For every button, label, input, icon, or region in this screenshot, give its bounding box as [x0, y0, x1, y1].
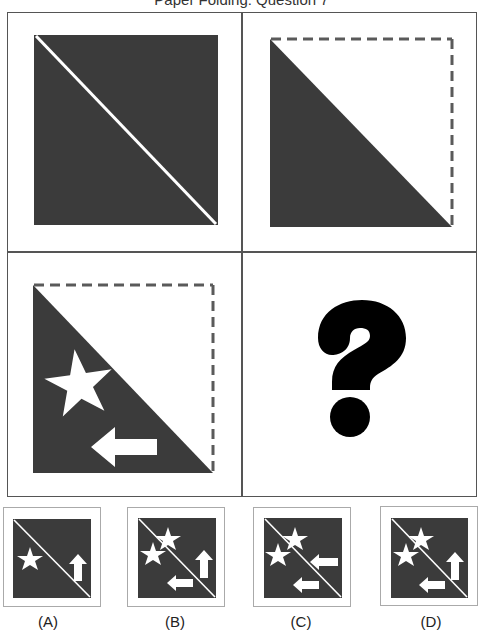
step-1-unfolded-square: [34, 35, 218, 225]
step-2-folded-triangle: [270, 37, 454, 228]
step-4-question-mark: [310, 300, 410, 440]
option-c[interactable]: [253, 507, 351, 607]
option-d-label[interactable]: (D): [411, 613, 451, 630]
grid-divider-horizontal: [7, 251, 477, 253]
option-d[interactable]: [380, 506, 478, 606]
step-3-punched-triangle: [33, 283, 215, 475]
grid-divider-vertical: [241, 12, 243, 497]
question-mark-icon: [318, 300, 406, 437]
question-title: Paper Folding: Question 7: [0, 0, 483, 8]
option-b-label[interactable]: (B): [155, 613, 195, 630]
option-a-label[interactable]: (A): [28, 613, 68, 630]
option-b[interactable]: [127, 507, 225, 607]
option-c-label[interactable]: (C): [281, 613, 321, 630]
option-a[interactable]: [3, 507, 101, 607]
